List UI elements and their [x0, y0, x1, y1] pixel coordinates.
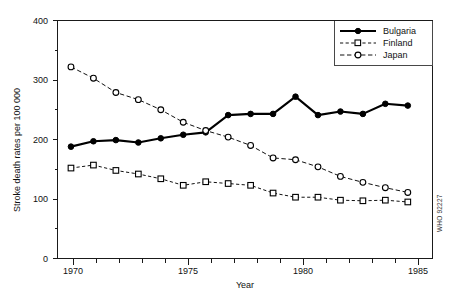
chart-page: 0 100 200 300 400 Stroke death rates per… [0, 0, 457, 295]
data-point-open-circle [360, 179, 366, 185]
data-point-filled-circle [225, 112, 231, 118]
data-point-filled-circle [270, 111, 276, 117]
data-point-filled-circle [158, 136, 164, 142]
legend-label-bulgaria: Bulgaria [383, 26, 416, 36]
x-tick-label-1975: 1975 [178, 266, 198, 276]
data-point-filled-circle [383, 101, 389, 107]
data-point-open-square [113, 168, 119, 174]
data-point-open-circle [91, 75, 97, 81]
data-point-filled-circle [293, 94, 299, 100]
legend-marker-open-square [355, 40, 361, 46]
legend: Bulgaria Finland Japan [335, 21, 433, 66]
data-point-open-circle [248, 143, 254, 149]
data-point-open-circle [68, 64, 74, 70]
data-point-open-circle [203, 128, 209, 134]
legend-label-finland: Finland [383, 38, 413, 48]
data-point-open-square [203, 179, 209, 185]
data-point-open-square [68, 165, 74, 171]
legend-label-japan: Japan [383, 50, 408, 60]
data-point-open-circle [270, 155, 276, 161]
y-tick-label-400: 400 [33, 16, 48, 26]
x-tick-label-1980: 1980 [293, 266, 313, 276]
data-point-open-circle [158, 107, 164, 113]
y-tick-label-0: 0 [43, 254, 48, 264]
data-point-filled-circle [338, 109, 344, 115]
y-axis-title: Stroke death rates per 100 000 [12, 88, 22, 212]
data-point-open-square [405, 199, 411, 205]
data-point-filled-circle [180, 132, 186, 138]
data-point-filled-circle [360, 111, 366, 117]
y-tick-label-300: 300 [33, 75, 48, 85]
data-point-open-square [158, 176, 164, 182]
data-point-open-square [315, 194, 321, 200]
x-tick-label-1970: 1970 [63, 266, 83, 276]
data-point-open-square [225, 181, 231, 187]
data-point-open-square [383, 197, 389, 203]
series-line-japan [71, 67, 408, 193]
data-point-filled-circle [91, 138, 97, 144]
data-point-open-circle [405, 190, 411, 196]
who-credit-label: WHO 92227 [436, 194, 443, 232]
data-point-filled-circle [248, 111, 254, 117]
data-point-open-square [293, 194, 299, 200]
data-point-filled-circle [68, 144, 74, 150]
y-tick-label-100: 100 [33, 194, 48, 204]
data-point-open-square [338, 197, 344, 203]
series-line-bulgaria [71, 97, 408, 147]
series-japan [68, 64, 411, 195]
stroke-death-rates-line-chart: 0 100 200 300 400 Stroke death rates per… [0, 0, 457, 295]
data-point-filled-circle [113, 137, 119, 143]
legend-marker-open-circle [355, 52, 361, 58]
data-point-open-circle [225, 134, 231, 140]
data-point-filled-circle [315, 112, 321, 118]
data-point-open-circle [382, 185, 388, 191]
x-axis-ticks: 1970 1975 1980 1985 [63, 259, 428, 277]
x-tick-label-1985: 1985 [408, 266, 428, 276]
y-tick-label-200: 200 [33, 135, 48, 145]
data-point-open-circle [180, 119, 186, 125]
series-finland [68, 162, 410, 204]
data-series-layer [68, 64, 411, 205]
data-point-open-circle [338, 173, 344, 179]
y-axis-ticks: 0 100 200 300 400 [33, 16, 58, 264]
data-point-filled-circle [136, 140, 142, 146]
data-point-open-square [180, 183, 186, 189]
data-point-open-square [360, 198, 366, 204]
data-point-open-circle [315, 164, 321, 170]
x-axis-title: Year [236, 280, 254, 290]
series-line-finland [71, 165, 408, 202]
data-point-open-circle [113, 90, 119, 96]
data-point-open-square [136, 171, 142, 177]
data-point-open-circle [135, 97, 141, 103]
data-point-open-square [91, 162, 97, 168]
data-point-open-square [270, 190, 276, 196]
data-point-open-circle [293, 157, 299, 163]
legend-marker-filled-circle [355, 28, 360, 33]
data-point-open-square [248, 183, 254, 189]
data-point-filled-circle [405, 103, 411, 109]
